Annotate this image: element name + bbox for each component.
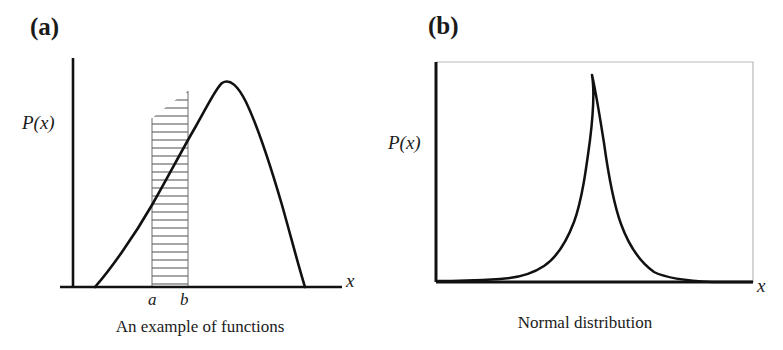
curve-a-path xyxy=(95,118,152,287)
panel-b: (b) P(x) x Normal distribution xyxy=(400,0,783,350)
panel-b-caption: Normal distribution xyxy=(400,314,770,331)
panel-a-plot xyxy=(0,0,400,350)
panel-a-caption: An example of functions xyxy=(0,318,400,335)
gaussian-curve xyxy=(438,75,752,282)
panel-a: (a) P(x) x a b xyxy=(0,0,400,350)
figure-root: (a) P(x) x a b xyxy=(0,0,783,350)
panel-b-plot xyxy=(400,0,783,350)
probability-density-curve xyxy=(95,118,152,287)
curve-a xyxy=(95,82,305,287)
shaded-probability-region xyxy=(150,80,192,290)
